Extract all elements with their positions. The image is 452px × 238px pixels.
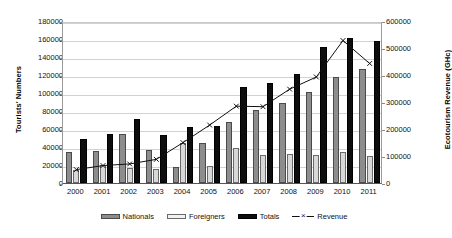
revenue-marker-2004	[181, 140, 186, 145]
bar-swatch-black-icon	[238, 214, 257, 219]
bar-swatch-dark-gray-icon	[101, 214, 120, 219]
y-axis-right-tick-label: 100000	[386, 152, 446, 161]
y-axis-left-tick-mark	[59, 184, 62, 185]
revenue-marker-2009	[314, 75, 319, 80]
legend-item-nationals: Nationals	[101, 212, 154, 221]
revenue-marker-2011	[367, 61, 372, 66]
legend-label: Totals	[260, 212, 280, 221]
legend-label: Revenue	[317, 212, 347, 221]
y-axis-right-tick-label: 200000	[386, 125, 446, 134]
y-axis-left-tick-label: 120000	[3, 71, 63, 80]
y-axis-left-tick-label: 160000	[3, 35, 63, 44]
y-axis-left-tick-label: 20000	[3, 161, 63, 170]
revenue-marker-2008	[287, 87, 292, 92]
y-axis-left-tick-label: 180000	[3, 17, 63, 26]
y-axis-right-tick-label: 600000	[386, 17, 446, 26]
y-axis-right-tick-label: 500000	[386, 44, 446, 53]
plot-area	[62, 22, 382, 184]
bar-swatch-light-gray-icon	[167, 214, 186, 219]
revenue-marker-2010	[341, 38, 346, 43]
chart-legend: NationalsForeignersTotalsRevenue	[0, 212, 448, 221]
y-axis-right-tick-label: 300000	[386, 98, 446, 107]
revenue-line	[76, 41, 369, 170]
x-axis-tick-label-2011: 2011	[349, 187, 389, 196]
y-axis-left-tick-label: 60000	[3, 125, 63, 134]
revenue-line-series	[63, 23, 383, 185]
y-axis-left-tick-label: 40000	[3, 143, 63, 152]
y-axis-left-tick-label: 140000	[3, 53, 63, 62]
legend-item-revenue: Revenue	[292, 212, 347, 221]
y-axis-left-tick-label: 100000	[3, 89, 63, 98]
y-axis-left-tick-label: 0	[3, 179, 63, 188]
legend-label: Foreigners	[189, 212, 225, 221]
y-axis-right-tick-label: 400000	[386, 71, 446, 80]
y-axis-left-tick-label: 80000	[3, 107, 63, 116]
legend-item-totals: Totals	[238, 212, 280, 221]
legend-item-foreigners: Foreigners	[167, 212, 225, 221]
revenue-marker-2005	[207, 123, 212, 128]
line-x-marker-icon	[292, 213, 314, 220]
y-axis-right-tick-label: 0	[386, 179, 446, 188]
legend-label: Nationals	[123, 212, 154, 221]
